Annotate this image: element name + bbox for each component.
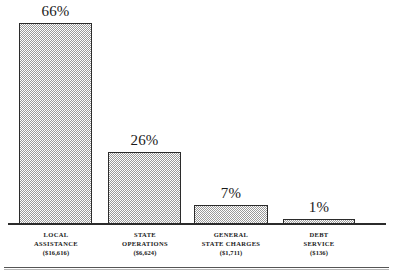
category-label-line1: LOCAL: [14, 231, 98, 240]
category-label-line2: ASSISTANCE: [14, 240, 98, 249]
category-amount: ($6,624): [103, 249, 187, 258]
bar-state-operations: [108, 152, 181, 224]
category-label-line1: GENERAL: [189, 231, 273, 240]
category-label-line1: DEBT: [277, 231, 361, 240]
category-label-general-state-charges: GENERAL STATE CHARGES ($1,711): [189, 231, 273, 258]
bar-local-assistance: [19, 23, 92, 224]
bar-general-state-charges: [194, 205, 268, 224]
plot-area: 66% 26% 7% 1%: [0, 0, 393, 226]
category-label-state-operations: STATE OPERATIONS ($6,624): [103, 231, 187, 258]
bar-value-label-local-assistance: 66%: [19, 3, 92, 20]
category-label-line2: OPERATIONS: [103, 240, 187, 249]
category-amount: ($16,616): [14, 249, 98, 258]
bar-value-label-general-state-charges: 7%: [194, 185, 268, 202]
category-amount: ($136): [277, 249, 361, 258]
category-label-line2: SERVICE: [277, 240, 361, 249]
category-amount: ($1,711): [189, 249, 273, 258]
bar-value-label-state-operations: 26%: [108, 132, 181, 149]
footer-divider-shadow: [4, 269, 389, 270]
footer-divider: [4, 267, 389, 268]
category-axis-line: [8, 223, 386, 225]
category-label-line1: STATE: [103, 231, 187, 240]
bar-value-label-debt-service: 1%: [283, 199, 355, 216]
category-label-debt-service: DEBT SERVICE ($136): [277, 231, 361, 258]
category-label-local-assistance: LOCAL ASSISTANCE ($16,616): [14, 231, 98, 258]
bar-chart: 66% 26% 7% 1% LOCAL ASSISTANCE ($16,616)…: [0, 0, 393, 279]
category-label-line2: STATE CHARGES: [189, 240, 273, 249]
